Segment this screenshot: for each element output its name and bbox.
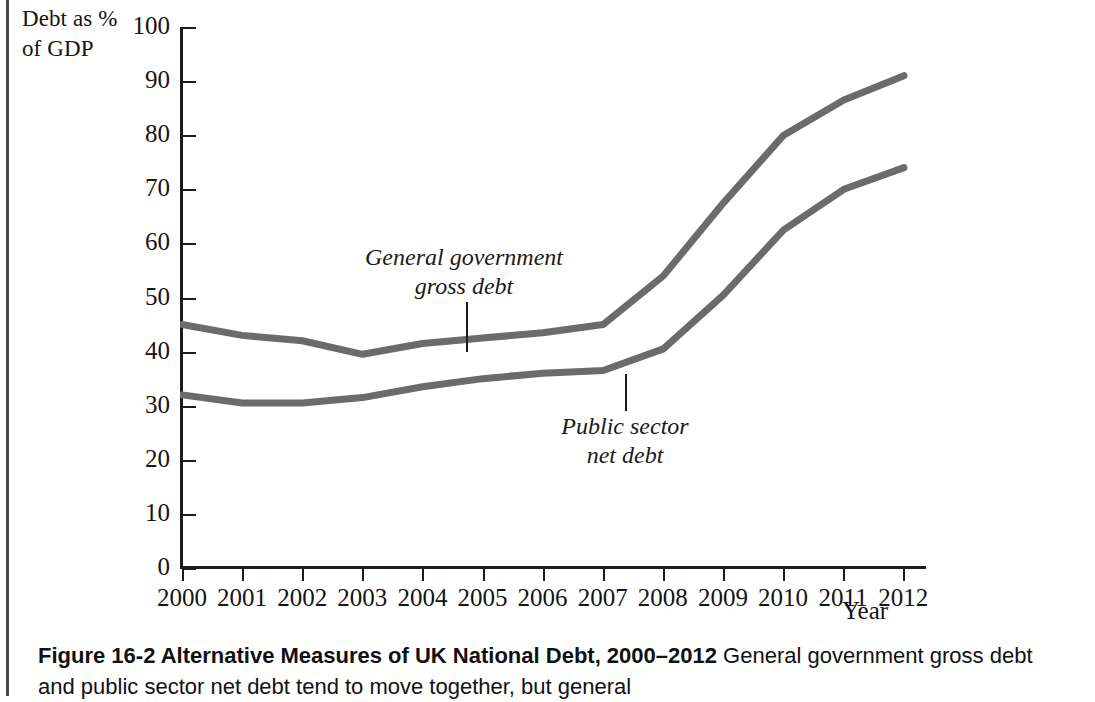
x-tick-label-2007: 2007 xyxy=(578,584,628,612)
x-tick-label-2009: 2009 xyxy=(698,584,748,612)
x-tick-label-2000: 2000 xyxy=(157,584,207,612)
y-tick-label-0: 0 xyxy=(158,553,171,581)
figure-caption: Figure 16-2 Alternative Measures of UK N… xyxy=(38,640,1058,702)
figure-caption-title: Figure 16-2 Alternative Measures of UK N… xyxy=(38,643,717,668)
annotation-net-line-1: Public sector xyxy=(510,412,740,441)
annotation-general-government-gross-debt: General government gross debt xyxy=(334,243,594,301)
annotation-net-leader-line xyxy=(625,374,627,411)
y-axis-title-line-2: of GDP xyxy=(22,34,142,64)
y-axis-title-line-1: Debt as % xyxy=(22,4,142,34)
x-tick-label-2006: 2006 xyxy=(518,584,568,612)
x-tick-label-2008: 2008 xyxy=(638,584,688,612)
annotation-gross-line-1: General government xyxy=(334,243,594,272)
y-tick-label-50: 50 xyxy=(145,283,170,311)
series-line-general-government-gross-debt xyxy=(182,76,904,355)
x-tick-label-2004: 2004 xyxy=(397,584,447,612)
annotation-net-line-2: net debt xyxy=(510,441,740,470)
x-axis-title: Year xyxy=(842,597,888,625)
y-tick-label-70: 70 xyxy=(145,174,170,202)
y-tick-label-90: 90 xyxy=(145,66,170,94)
annotation-gross-line-2: gross debt xyxy=(334,272,594,301)
figure-chart-area: Debt as % of GDP 0 10 20 30 40 50 xyxy=(0,0,1095,624)
annotation-gross-leader-line xyxy=(466,302,468,352)
y-tick-label-100: 100 xyxy=(133,12,171,40)
annotation-public-sector-net-debt: Public sector net debt xyxy=(510,412,740,470)
y-tick-label-10: 10 xyxy=(145,499,170,527)
y-tick-label-80: 80 xyxy=(145,120,170,148)
y-axis-title: Debt as % of GDP xyxy=(22,4,142,64)
y-tick-label-30: 30 xyxy=(145,391,170,419)
y-tick-label-20: 20 xyxy=(145,445,170,473)
y-tick-label-60: 60 xyxy=(145,228,170,256)
x-tick-label-2002: 2002 xyxy=(277,584,327,612)
x-tick-label-2010: 2010 xyxy=(758,584,808,612)
x-tick-label-2003: 2003 xyxy=(337,584,387,612)
y-tick-label-40: 40 xyxy=(145,337,170,365)
x-tick-label-2005: 2005 xyxy=(458,584,508,612)
x-tick-label-2001: 2001 xyxy=(217,584,267,612)
